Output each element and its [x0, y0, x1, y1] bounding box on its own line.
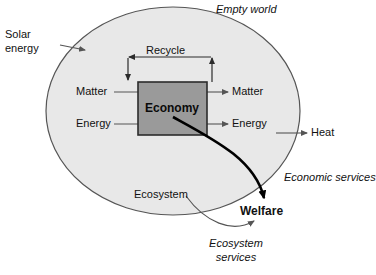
matter-output-label: Matter — [232, 85, 263, 98]
heat-output-label: Heat — [311, 126, 334, 139]
economy-label: Economy — [145, 101, 199, 115]
energy-output-label: Energy — [232, 117, 267, 130]
economic-services-label: Economic services — [284, 171, 376, 184]
ecosystem-label: Ecosystem — [134, 188, 188, 201]
welfare-label: Welfare — [240, 205, 283, 218]
solar-energy-label-line1: Solar — [5, 28, 31, 41]
matter-input-label: Matter — [76, 85, 107, 98]
energy-input-label: Energy — [76, 117, 111, 130]
ecosystem-services-label-line1: Ecosystem — [196, 237, 276, 250]
solar-energy-label-line2: energy — [5, 42, 39, 55]
empty-world-title: Empty world — [216, 3, 277, 16]
recycle-label: Recycle — [146, 44, 185, 57]
ecosystem-services-label-line2: services — [196, 251, 276, 264]
